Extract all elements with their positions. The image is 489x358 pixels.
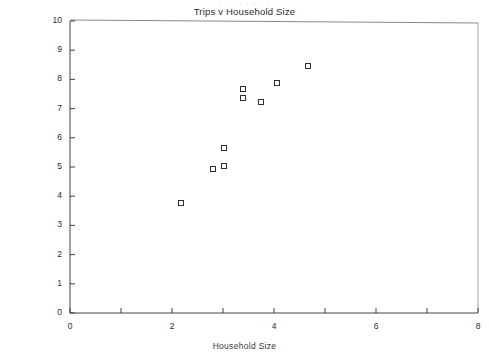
data-point: [258, 99, 264, 105]
data-point: [305, 63, 311, 69]
x-tick-label-0: 0: [58, 322, 82, 331]
y-tick-label-7: 7: [40, 104, 62, 113]
data-point: [240, 86, 246, 92]
y-tick-label-6: 6: [40, 133, 62, 142]
x-tick-label-8: 8: [466, 322, 489, 331]
y-tick-label-3: 3: [40, 220, 62, 229]
y-tick-label-5: 5: [40, 162, 62, 171]
data-point: [221, 145, 227, 151]
y-tick-label-10: 10: [40, 16, 62, 25]
y-tick-label-2: 2: [40, 250, 62, 259]
plot-area: [70, 21, 478, 313]
data-point: [178, 200, 184, 206]
y-tick-label-9: 9: [40, 45, 62, 54]
data-point: [210, 166, 216, 172]
y-tick-label-8: 8: [40, 74, 62, 83]
data-point: [221, 163, 227, 169]
x-axis-label: Household Size: [0, 341, 489, 351]
data-point: [240, 95, 246, 101]
data-point: [274, 80, 280, 86]
x-tick-label-2: 2: [160, 322, 184, 331]
y-tick-label-0: 0: [40, 308, 62, 317]
y-tick-label-1: 1: [40, 279, 62, 288]
x-tick-label-6: 6: [364, 322, 388, 331]
scatter-plot-figure: · · · · · · · · Trips v Household Size 0…: [0, 0, 489, 358]
y-tick-label-4: 4: [40, 191, 62, 200]
x-tick-label-4: 4: [262, 322, 286, 331]
